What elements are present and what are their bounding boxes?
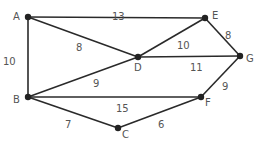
edge-a-d — [28, 17, 138, 57]
edge-weight-b-c: 7 — [65, 119, 71, 130]
edge-weights-group: 1310810811915769 — [3, 11, 231, 130]
edge-weight-a-d: 8 — [76, 42, 82, 53]
edge-weight-e-d: 10 — [177, 40, 190, 51]
edge-weight-b-f: 15 — [116, 103, 129, 114]
node-label-c: C — [122, 129, 129, 140]
node-label-a: A — [13, 11, 20, 22]
edge-b-c — [28, 97, 118, 128]
node-label-d: D — [134, 62, 142, 73]
edge-weight-e-g: 8 — [225, 30, 231, 41]
node-label-b: B — [13, 94, 20, 105]
node-g — [237, 53, 243, 59]
edge-weight-f-g: 9 — [222, 81, 228, 92]
node-label-g: G — [246, 53, 254, 64]
node-label-e: E — [212, 10, 218, 21]
edge-e-d — [138, 18, 205, 57]
edge-f-g — [201, 56, 240, 97]
edge-weight-a-b: 10 — [3, 56, 16, 67]
edge-e-g — [205, 18, 240, 56]
edge-weight-c-f: 6 — [158, 119, 164, 130]
weighted-graph-diagram: 1310810811915769 ABCDEFG — [0, 0, 265, 144]
node-a — [25, 14, 31, 20]
edge-weight-d-g: 11 — [190, 62, 203, 73]
node-c — [115, 125, 121, 131]
edge-d-g — [138, 56, 240, 57]
edge-b-d — [28, 57, 138, 97]
node-label-f: F — [205, 97, 211, 108]
node-e — [202, 15, 208, 21]
node-labels-group: ABCDEFG — [13, 10, 254, 140]
node-f — [198, 94, 204, 100]
edge-weight-a-e: 13 — [112, 11, 125, 22]
edge-weight-b-d: 9 — [93, 78, 99, 89]
node-b — [25, 94, 31, 100]
node-d — [135, 54, 141, 60]
